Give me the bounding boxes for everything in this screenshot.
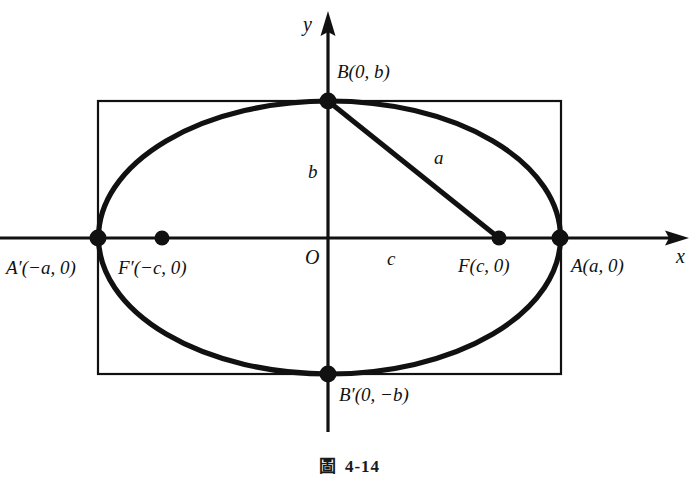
segment-label-a: a	[434, 148, 444, 167]
origin-label: O	[305, 247, 319, 267]
point-marker-Bp	[320, 366, 337, 383]
point-label-B: B(0, b)	[337, 62, 390, 81]
point-marker-F	[492, 231, 507, 246]
segment-label-b: b	[308, 162, 318, 181]
x-axis-label: x	[676, 246, 685, 266]
segment-a-line	[328, 101, 499, 238]
point-label-B-prime: B′(0, −b)	[339, 385, 409, 404]
point-label-F: F(c, 0)	[458, 256, 510, 275]
point-marker-Ap	[90, 230, 107, 247]
segment-label-c: c	[387, 249, 395, 268]
point-label-A: A(a, 0)	[571, 256, 624, 275]
point-label-A-prime: A′(−a, 0)	[6, 258, 76, 277]
point-marker-B	[320, 93, 337, 110]
point-label-F-prime: F′(−c, 0)	[118, 258, 187, 277]
y-axis-label: y	[303, 14, 312, 34]
figure-container: y x B(0, b) B′(0, −b) A′(−a, 0) F′(−c, 0…	[0, 0, 699, 481]
figure-caption-word: 圖	[319, 456, 337, 476]
figure-caption: 圖4-14	[0, 452, 699, 477]
figure-caption-number: 4-14	[345, 457, 380, 476]
point-marker-Fp	[155, 231, 170, 246]
point-marker-A	[552, 230, 569, 247]
